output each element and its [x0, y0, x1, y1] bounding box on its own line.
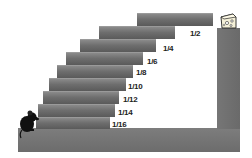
step-label: 1/16 — [112, 120, 126, 129]
step-label: 1/2 — [190, 29, 200, 38]
bottom-step — [36, 117, 110, 129]
mouse-icon — [17, 110, 41, 140]
step-label: 1/14 — [118, 108, 132, 117]
step — [99, 26, 175, 39]
step-label: 1/12 — [123, 95, 137, 104]
step-label: 1/10 — [128, 82, 142, 91]
step — [66, 52, 143, 65]
step-label: 1/6 — [147, 57, 157, 66]
step-label: 1/4 — [163, 44, 173, 53]
step — [137, 13, 213, 26]
step-label: 1/8 — [136, 68, 146, 77]
step — [80, 39, 156, 52]
step — [38, 104, 115, 117]
floor — [18, 128, 240, 152]
step — [49, 78, 126, 91]
cheese-icon — [220, 13, 237, 29]
step — [57, 65, 133, 78]
right-pillar — [217, 28, 240, 129]
step — [43, 91, 119, 104]
